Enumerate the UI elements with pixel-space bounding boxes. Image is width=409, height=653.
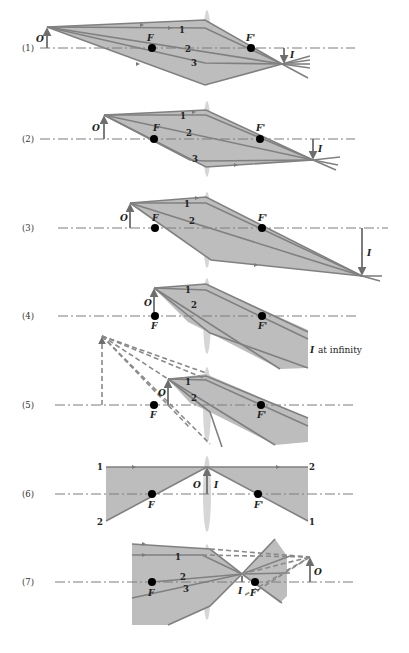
image-label: I [237, 586, 243, 596]
ray-number-3: 3 [191, 58, 197, 68]
ray-number-1: 1 [184, 199, 190, 209]
diagram-label: (7) [22, 577, 34, 587]
ray-number-1-left: 1 [97, 462, 103, 472]
ray-number-2: 2 [191, 393, 197, 403]
ray-number-1: 1 [175, 552, 181, 562]
focal-label-front: F [146, 33, 154, 43]
ray-number-1: 1 [180, 111, 186, 121]
image-label: I [309, 345, 315, 355]
focal-label-back: F' [253, 500, 263, 510]
ray-number-2: 2 [189, 216, 195, 226]
focal-point-back [256, 135, 264, 143]
ray-number-1: 1 [179, 25, 185, 35]
diagram-label: (4) [22, 311, 34, 321]
diagram-6: (6) O I F F' 1 2 2 1 [22, 456, 356, 532]
focal-label-front: F [147, 588, 155, 598]
diagram-label: (1) [22, 43, 34, 53]
focal-point-back [258, 224, 266, 232]
focal-label-back: F' [249, 588, 259, 598]
focal-label-front: F [151, 213, 159, 223]
focal-point-front [148, 578, 156, 586]
object-label: O [314, 567, 322, 577]
ray-number-1: 1 [185, 285, 191, 295]
diagram-1: (1) O F F' I 1 2 3 [22, 10, 355, 86]
focal-point-front [148, 44, 156, 52]
focal-label-back: F' [257, 321, 267, 331]
image-label: I [366, 248, 372, 258]
virtual-ray [102, 336, 168, 379]
diagram-4: (4) O F F' 1 2 I at infinity [22, 278, 363, 369]
focal-point-back [258, 312, 266, 320]
focal-label-back: F' [255, 123, 265, 133]
object-label: O [144, 298, 152, 308]
diagram-label: (3) [22, 223, 34, 233]
focal-point-front [150, 401, 158, 409]
ray-number-2: 2 [191, 300, 197, 310]
ray-2 [130, 203, 362, 276]
focal-label-back: F' [256, 410, 266, 420]
image-label: I [213, 480, 219, 490]
diagram-7: (7) O I F F' 1 2 3 [22, 539, 356, 625]
focal-point-back [251, 578, 259, 586]
image-at-infinity-note: at infinity [318, 345, 363, 355]
virtual-ray [102, 336, 206, 379]
ray-number-2-right: 2 [309, 462, 315, 472]
ray-number-3: 3 [183, 584, 189, 594]
ray-extension [313, 157, 340, 160]
ray-number-1-right: 1 [309, 517, 315, 527]
object-label: O [120, 213, 128, 223]
object-label: O [92, 123, 100, 133]
image-label: I [317, 144, 323, 154]
focal-label-front: F [149, 410, 157, 420]
diagram-label: (2) [22, 134, 34, 144]
object-label: O [193, 480, 201, 490]
ray-number-2: 2 [180, 572, 186, 582]
focal-label-front: F [147, 500, 155, 510]
focal-point-front [151, 224, 159, 232]
ray-number-2: 2 [186, 128, 192, 138]
ray-number-3: 3 [192, 154, 198, 164]
object-label: O [36, 34, 44, 44]
ray-bundle-fill [154, 284, 308, 369]
focal-label-front: F [150, 321, 158, 331]
focal-point-back [257, 401, 265, 409]
focal-point-back [254, 490, 262, 498]
ray-number-2-left: 2 [97, 517, 103, 527]
diagram-label: (5) [22, 400, 34, 410]
diagram-label: (6) [22, 489, 34, 499]
focal-point-front [150, 135, 158, 143]
lens-ray-diagrams: (1) O F F' I 1 2 3 (2) O F F' I 1 2 3 [0, 0, 409, 653]
diagram-2: (2) O F F' I 1 2 3 [22, 101, 355, 177]
focal-point-front [151, 312, 159, 320]
ray-number-1: 1 [185, 377, 191, 387]
focal-point-back [247, 44, 255, 52]
ray-number-2: 2 [185, 44, 191, 54]
object-label: O [158, 388, 166, 398]
focal-label-back: F' [245, 33, 255, 43]
virtual-ray [102, 336, 206, 373]
image-label: I [289, 50, 295, 60]
diagram-3: (3) O F F' I 1 2 [22, 192, 388, 281]
focal-label-front: F [152, 123, 160, 133]
arrowhead-icon [136, 62, 140, 66]
ray-bundle-fill [47, 20, 282, 85]
focal-label-back: F' [257, 213, 267, 223]
focal-point-front [148, 490, 156, 498]
